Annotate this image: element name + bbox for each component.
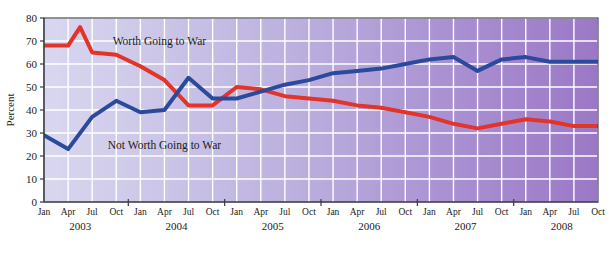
x-tick-label: Jan bbox=[327, 207, 340, 217]
x-axis-year-label: 2007 bbox=[455, 220, 478, 232]
x-axis-year-label: 2005 bbox=[262, 220, 285, 232]
y-tick-label: 60 bbox=[26, 58, 38, 70]
x-tick-label: Apr bbox=[253, 207, 269, 217]
x-tick-label: Jul bbox=[568, 207, 579, 217]
y-tick-label: 10 bbox=[26, 173, 38, 185]
y-axis-ticks: 01020304050607080 bbox=[26, 12, 44, 208]
x-tick-label: Apr bbox=[350, 207, 366, 217]
y-tick-label: 50 bbox=[26, 81, 38, 93]
series-label-worth-going-to-war: Worth Going to War bbox=[113, 35, 207, 48]
y-tick-label: 40 bbox=[26, 104, 38, 116]
y-axis-title: Percent bbox=[4, 94, 16, 127]
x-tick-label: Jul bbox=[183, 207, 194, 217]
y-tick-label: 0 bbox=[32, 196, 38, 208]
x-tick-label: Jul bbox=[472, 207, 483, 217]
line-chart: 01020304050607080 JanAprJulOctJanAprJulO… bbox=[0, 0, 616, 255]
x-tick-label: Oct bbox=[591, 207, 605, 217]
x-tick-label: Jul bbox=[376, 207, 387, 217]
x-tick-label: Jan bbox=[38, 207, 51, 217]
x-tick-label: Apr bbox=[446, 207, 462, 217]
x-tick-label: Oct bbox=[302, 207, 316, 217]
y-tick-label: 80 bbox=[26, 12, 38, 24]
x-axis-year-label: 2008 bbox=[551, 220, 574, 232]
chart-container: 01020304050607080 JanAprJulOctJanAprJulO… bbox=[0, 0, 616, 255]
x-tick-label: Jan bbox=[134, 207, 147, 217]
x-tick-label: Oct bbox=[495, 207, 509, 217]
x-tick-label: Jul bbox=[87, 207, 98, 217]
x-axis-year-label: 2003 bbox=[69, 220, 92, 232]
x-tick-label: Jan bbox=[230, 207, 243, 217]
series-label-not-worth-going-to-war: Not Worth Going to War bbox=[108, 139, 222, 152]
x-axis-year-label: 2006 bbox=[358, 220, 381, 232]
x-tick-label: Jan bbox=[423, 207, 436, 217]
x-tick-label: Oct bbox=[109, 207, 123, 217]
x-tick-label: Apr bbox=[542, 207, 558, 217]
y-tick-label: 20 bbox=[26, 150, 38, 162]
y-tick-label: 70 bbox=[26, 35, 38, 47]
x-tick-label: Apr bbox=[157, 207, 173, 217]
x-tick-label: Jul bbox=[279, 207, 290, 217]
x-axis-year-label: 2004 bbox=[165, 220, 188, 232]
x-tick-label: Oct bbox=[206, 207, 220, 217]
x-tick-label: Apr bbox=[61, 207, 77, 217]
y-tick-label: 30 bbox=[26, 127, 38, 139]
x-tick-label: Oct bbox=[398, 207, 412, 217]
x-tick-label: Jan bbox=[519, 207, 532, 217]
